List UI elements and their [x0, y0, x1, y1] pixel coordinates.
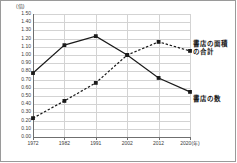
- data-point-marker: [125, 53, 129, 57]
- data-point-marker: [63, 99, 67, 103]
- data-point-marker: [31, 71, 35, 75]
- data-point-marker: [188, 90, 192, 94]
- series-line-2: [33, 42, 190, 118]
- data-point-marker: [94, 34, 98, 38]
- annotation-bookstore-count: 書店の数: [193, 95, 221, 103]
- chart-figure: (倍) 1.501.401.301.201.101.000.900.800.70…: [0, 0, 237, 163]
- data-point-marker: [188, 49, 192, 53]
- data-point-marker: [157, 40, 161, 44]
- series-layer: [0, 0, 237, 163]
- data-point-marker: [63, 43, 67, 47]
- annotation-bookstore-area: 書店の面積 の合計: [193, 40, 228, 56]
- data-point-marker: [94, 81, 98, 85]
- data-point-marker: [157, 76, 161, 80]
- data-point-marker: [31, 116, 35, 120]
